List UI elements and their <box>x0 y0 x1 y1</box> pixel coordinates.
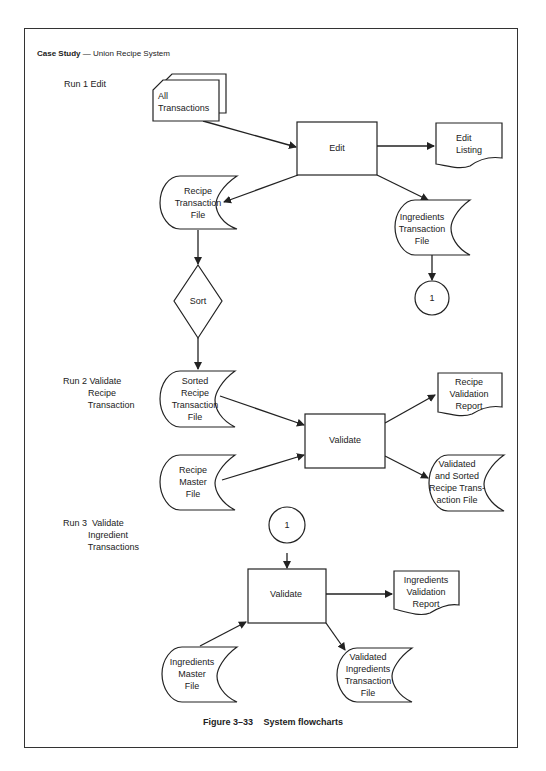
node-ingredients-validation-report: Ingredients Validation Report <box>394 571 459 614</box>
node-label-line: Transaction <box>175 198 222 208</box>
figure-number: Figure 3–33 <box>203 717 253 727</box>
node-label-line: Validated <box>350 652 387 662</box>
node-edit: Edit <box>297 122 377 175</box>
edge-validate-to-validated-file <box>385 456 428 478</box>
node-recipe-transaction-file: Recipe Transaction File <box>160 176 237 229</box>
node-label-line: Transactions <box>158 103 210 113</box>
node-connector-1-out: 1 <box>415 281 449 315</box>
figure-title: System flowcharts <box>264 717 344 727</box>
node-label-line: Edit <box>329 143 345 153</box>
edge-sorted-file-to-validate <box>220 396 304 425</box>
node-label-line: File <box>361 688 376 698</box>
edge-all-transactions-to-edit <box>203 121 296 147</box>
node-label-line: and Sorted <box>435 471 479 481</box>
node-label-line: 1 <box>429 293 434 303</box>
node-label-line: Recipe Trans- <box>429 483 485 493</box>
node-label-line: Ingredients <box>170 657 215 667</box>
node-ingredients-master-file: Ingredients Master File <box>162 647 237 702</box>
node-label-line: 1 <box>284 520 289 530</box>
node-label-line: Recipe <box>179 465 207 475</box>
node-label-line: Sorted <box>182 376 209 386</box>
edge-validate-to-validated-ingredients-file <box>326 623 345 650</box>
node-ingredients-transaction-file: Ingredients Transaction File <box>395 200 470 255</box>
node-label-line: Recipe <box>184 186 212 196</box>
node-label-line: Report <box>412 599 440 609</box>
edge-validate-to-recipe-report <box>385 395 435 423</box>
node-sorted-recipe-transaction-file: Sorted Recipe Transaction File <box>160 371 235 427</box>
node-label-line: Validation <box>407 587 446 597</box>
node-label-line: Listing <box>456 145 482 155</box>
node-label-line: File <box>185 681 200 691</box>
node-sort: Sort <box>174 265 222 338</box>
node-label-line: Report <box>455 401 483 411</box>
node-validate-recipe: Validate <box>305 414 385 468</box>
flowchart-canvas: All Transactions Edit Edit Listing Recip… <box>0 0 546 771</box>
node-connector-1-in: 1 <box>269 507 305 543</box>
node-label-line: Validate <box>270 589 302 599</box>
node-validated-sorted-recipe-file: Validated and Sorted Recipe Trans- actio… <box>429 455 504 511</box>
node-edit-listing: Edit Listing <box>436 123 502 168</box>
node-label-line: Recipe <box>181 388 209 398</box>
node-label-line: Recipe <box>455 377 483 387</box>
figure-caption: Figure 3–33 System flowcharts <box>0 717 546 727</box>
node-label-line: Validation <box>450 389 489 399</box>
edge-edit-to-ingredients-transaction-file <box>377 175 428 200</box>
node-recipe-validation-report: Recipe Validation Report <box>438 373 502 416</box>
node-label-line: Transaction <box>172 400 219 410</box>
node-label-line: Validate <box>329 435 361 445</box>
node-label-line: Validated <box>439 459 476 469</box>
node-label-line: Transaction <box>345 676 392 686</box>
node-label-line: Sort <box>190 296 207 306</box>
node-validate-ingredients: Validate <box>248 569 326 623</box>
node-label-line: Ingredients <box>400 212 445 222</box>
node-recipe-master-file: Recipe Master File <box>160 455 235 510</box>
node-label-line: Edit <box>456 133 472 143</box>
edge-master-file-to-validate <box>222 455 304 480</box>
node-label-line: Ingredients <box>346 664 391 674</box>
node-label-line: File <box>415 236 430 246</box>
edge-edit-to-recipe-transaction-file <box>224 175 298 202</box>
node-label-line: action File <box>436 495 477 505</box>
node-label-line: File <box>186 489 201 499</box>
node-all-transactions: All Transactions <box>153 74 226 121</box>
edge-ingredients-master-to-validate <box>200 622 246 646</box>
node-label-line: Master <box>178 669 206 679</box>
node-label-line: Master <box>179 477 207 487</box>
node-label-line: All <box>158 91 168 101</box>
node-label-line: Ingredients <box>404 575 449 585</box>
node-validated-ingredients-transaction-file: Validated Ingredients Transaction File <box>337 648 412 702</box>
node-label-line: File <box>188 412 203 422</box>
node-label-line: Transaction <box>399 224 446 234</box>
node-label-line: File <box>191 210 206 220</box>
